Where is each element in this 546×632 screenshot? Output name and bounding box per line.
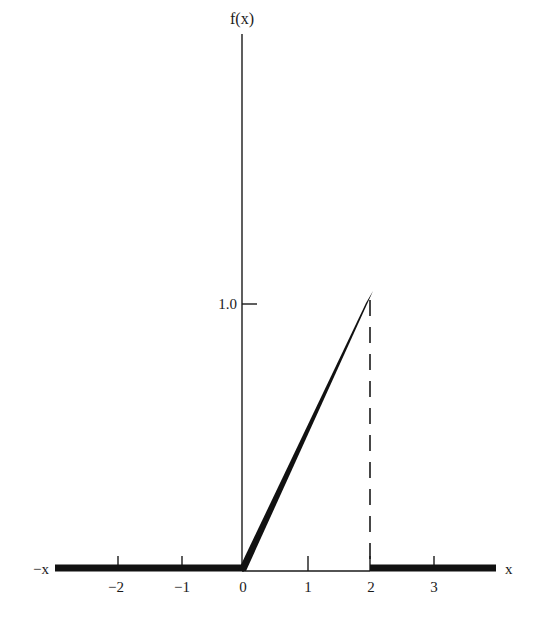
y-tick-label-1: 1.0 <box>218 296 237 312</box>
x-tick-label-3: 3 <box>430 579 438 595</box>
x-tick-label-m2: −2 <box>108 579 124 595</box>
x-pos-label: x <box>505 561 513 577</box>
x-neg-label: −x <box>33 561 49 577</box>
chart-canvas: f(x) 1.0 −x x −2 −1 0 1 2 3 <box>0 0 546 632</box>
series-ramp <box>238 291 373 571</box>
x-tick-label-m1: −1 <box>174 579 190 595</box>
x-tick-label-2: 2 <box>367 579 375 595</box>
x-tick-label-1: 1 <box>304 579 312 595</box>
y-axis-label: f(x) <box>230 10 254 28</box>
x-tick-label-0: 0 <box>239 579 247 595</box>
